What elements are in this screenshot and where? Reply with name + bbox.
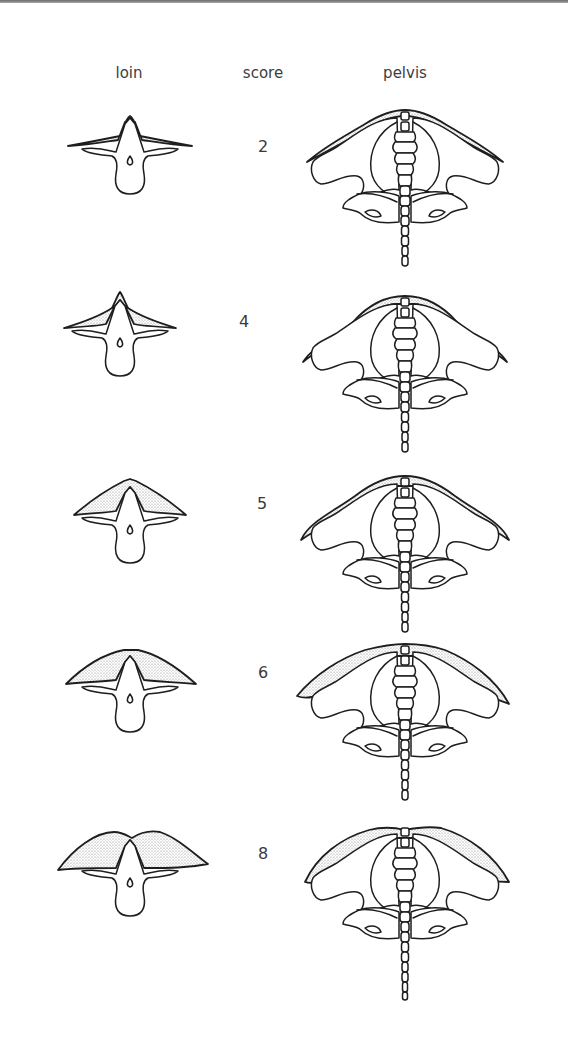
pelvis-diagram-score-2 bbox=[307, 110, 503, 266]
loin-diagram-score-5 bbox=[74, 479, 186, 563]
pelvis-diagram-score-6 bbox=[297, 644, 509, 800]
loin-diagram-score-4 bbox=[64, 292, 176, 376]
loin-diagram-score-2 bbox=[68, 116, 192, 194]
pelvis-diagram-score-5 bbox=[301, 476, 509, 632]
condition-score-diagram bbox=[0, 0, 568, 1039]
pelvis-diagram-score-4 bbox=[303, 296, 507, 452]
pelvis-diagram-score-8 bbox=[305, 827, 509, 1000]
loin-diagram-score-8 bbox=[58, 831, 208, 916]
loin-diagram-score-6 bbox=[66, 650, 196, 732]
